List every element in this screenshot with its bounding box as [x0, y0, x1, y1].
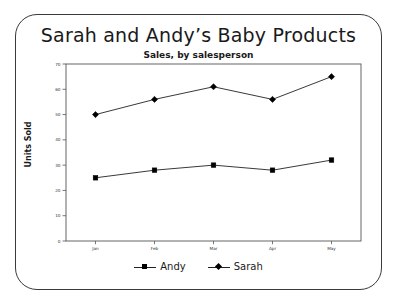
data-point-andy[interactable] — [152, 168, 157, 173]
data-point-andy[interactable] — [211, 163, 216, 168]
legend-marker-diamond-icon — [208, 262, 230, 272]
y-axis-tick-label: 10 — [55, 213, 61, 218]
y-axis-tick-label: 50 — [55, 112, 61, 117]
chart-container: Sarah and Andy’s Baby Products Sales, by… — [0, 0, 397, 306]
y-axis-tick-label: 40 — [55, 137, 61, 142]
data-point-sarah[interactable] — [269, 96, 275, 102]
data-point-sarah[interactable] — [328, 74, 334, 80]
x-axis-tick-label: Mar — [210, 246, 218, 251]
data-point-sarah[interactable] — [151, 96, 157, 102]
data-point-andy[interactable] — [329, 158, 334, 163]
legend-label-sarah: Sarah — [234, 262, 263, 272]
legend-label-andy: Andy — [160, 262, 185, 272]
y-axis-tick-label: 30 — [55, 163, 61, 168]
y-axis-tick-label: 60 — [55, 87, 61, 92]
data-point-sarah[interactable] — [210, 84, 216, 90]
x-axis-tick-label: May — [327, 246, 336, 251]
y-axis-tick-label: 20 — [55, 188, 61, 193]
x-axis-tick-label: Apr — [269, 246, 277, 251]
x-axis-tick-label: Jan — [91, 246, 99, 251]
chart-legend: Andy Sarah — [0, 262, 397, 272]
data-point-andy[interactable] — [270, 168, 275, 173]
legend-marker-square-icon — [134, 262, 156, 272]
chart-page: Sarah and Andy’s Baby Products Sales, by… — [0, 0, 397, 306]
plot-frame — [66, 64, 361, 241]
y-axis-tick-label: 70 — [55, 62, 61, 67]
legend-item-sarah[interactable]: Sarah — [208, 262, 263, 272]
legend-item-andy[interactable]: Andy — [134, 262, 185, 272]
plot-area: 010203040506070JanFebMarAprMay — [0, 0, 397, 306]
data-point-sarah[interactable] — [92, 111, 98, 117]
x-axis-tick-label: Feb — [151, 246, 159, 251]
series-line-sarah — [96, 77, 332, 115]
y-axis-tick-label: 0 — [58, 239, 61, 244]
data-point-andy[interactable] — [93, 175, 98, 180]
